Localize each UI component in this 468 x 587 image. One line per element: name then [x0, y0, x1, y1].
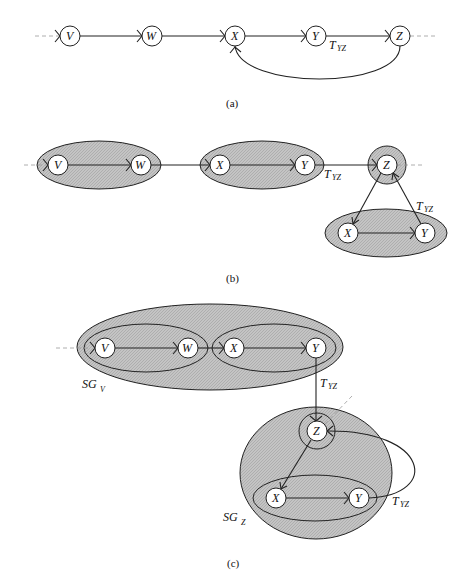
- node-x-lower-label: X: [271, 491, 280, 505]
- caption-c: (c): [227, 557, 240, 570]
- node-w-label: W: [135, 158, 146, 172]
- edge-label-t: T: [320, 376, 328, 390]
- sgv-label-sub: V: [100, 385, 106, 394]
- node-x-label: X: [229, 341, 238, 355]
- node-w-label: W: [182, 341, 193, 355]
- node-w-label: W: [146, 29, 157, 43]
- node-x-label: X: [215, 158, 224, 172]
- supergroup-sgv: [77, 304, 343, 390]
- panel-a: V W X Y Z T YZ (a): [35, 26, 436, 110]
- panel-c: V W X Y Z X Y T YZ T YZ SG V SG Z (c): [56, 304, 415, 570]
- edge-label-sub: YZ: [328, 382, 337, 391]
- edge-label-sub-2: YZ: [400, 500, 409, 509]
- node-x-lower-label: X: [343, 226, 352, 240]
- sgz-label-sub: Z: [241, 518, 246, 527]
- caption-a: (a): [226, 97, 239, 110]
- node-z-label: Z: [383, 158, 390, 172]
- node-z-label: Z: [396, 29, 403, 43]
- sgv-label: SG: [82, 377, 97, 391]
- edge-z-x-loop: [235, 46, 400, 79]
- edge-label-sub: YZ: [337, 44, 346, 53]
- caption-b: (b): [226, 272, 239, 285]
- edge-label-t-2: T: [392, 494, 400, 508]
- sgz-label: SG: [223, 510, 238, 524]
- panel-b: V W X Y Z X Y T YZ T YZ (b): [24, 141, 447, 285]
- node-z-label: Z: [313, 424, 320, 438]
- edge-label-sub: YZ: [332, 173, 341, 182]
- edge-label-t-2: T: [416, 199, 424, 213]
- node-x-label: X: [230, 29, 239, 43]
- figure-canvas: V W X Y Z T YZ (a): [0, 0, 468, 587]
- edge-label-t: T: [329, 38, 337, 52]
- edge-label-sub-2: YZ: [424, 205, 433, 214]
- edge-label-t: T: [324, 167, 332, 181]
